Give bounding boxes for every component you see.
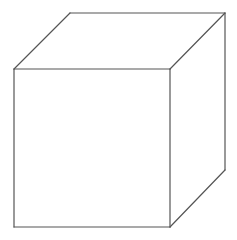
cube-edge-depth-top-right	[170, 13, 225, 69]
cube-diagram	[0, 0, 237, 240]
cube-edge-depth-bottom-right	[170, 170, 225, 227]
cube-edges	[14, 13, 225, 227]
cube-edge-depth-top-left	[14, 13, 70, 69]
